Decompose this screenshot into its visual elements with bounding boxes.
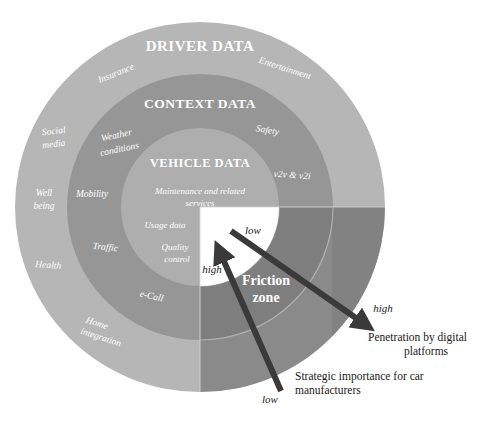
ring-item-usage-data: Usage data (144, 220, 186, 230)
strategic-importance-legend-line2: manufacturers (295, 384, 361, 396)
concentric-ring-diagram: DRIVER DATA CONTEXT DATA VEHICLE DATA In… (0, 0, 490, 421)
strategic-importance-legend-line1: Strategic importance for car (295, 370, 424, 383)
axis-label-vertical-high: high (202, 263, 222, 275)
friction-zone-label-line2: zone (252, 290, 279, 305)
ring-title-context-data: CONTEXT DATA (144, 96, 256, 111)
axis-label-horizontal-high: high (373, 302, 393, 314)
diagram-canvas: DRIVER DATA CONTEXT DATA VEHICLE DATA In… (0, 0, 490, 421)
ring-item-quality-control-line1: Quality (162, 242, 189, 252)
penetration-legend-line1: Penetration by digital (368, 331, 467, 344)
penetration-legend-line2: platforms (404, 345, 449, 358)
ring-title-vehicle-data: VEHICLE DATA (150, 156, 250, 170)
axis-label-horizontal-low: low (262, 393, 279, 405)
ring-item-mobility: Mobility (75, 189, 109, 199)
ring-item-health: Health (34, 259, 62, 271)
ring-title-driver-data: DRIVER DATA (146, 38, 255, 54)
ring-item-maintenance-line1: Maintenance and related (154, 186, 246, 196)
friction-zone-label-line1: Friction (242, 273, 290, 288)
axis-label-vertical-low: low (245, 224, 262, 236)
ring-item-maintenance-line2: services (186, 198, 215, 208)
ring-item-quality-control-line2: control (164, 254, 190, 264)
ring-item-well-being-line2: being (33, 201, 54, 211)
ring-item-well-being-line1: Well (36, 188, 53, 198)
